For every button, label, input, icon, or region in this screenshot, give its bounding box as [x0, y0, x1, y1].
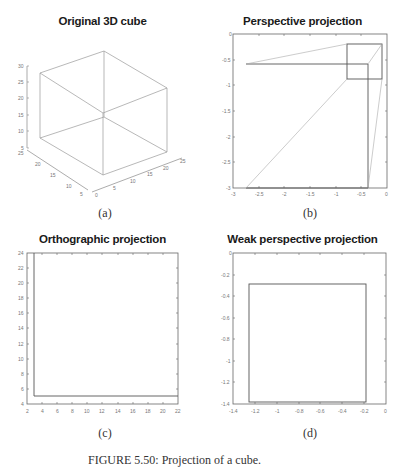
svg-text:0: 0: [229, 250, 232, 256]
svg-text:0: 0: [385, 191, 388, 197]
panel-b: Perspective projection 0-0.5-1 -1.5-2-2.…: [200, 0, 405, 220]
svg-text:20: 20: [18, 280, 24, 286]
svg-text:-1.5: -1.5: [306, 191, 315, 197]
svg-text:-3: -3: [226, 185, 231, 191]
panel-b-plot: 0-0.5-1 -1.5-2-2.5-3 -3-2.5-2-1.5 -1-0.5…: [200, 0, 405, 205]
svg-text:16: 16: [18, 310, 24, 316]
svg-text:-1.2: -1.2: [251, 408, 260, 414]
panel-d-plot: 0-0.2-0.4-0.6 -0.8-1-1.2-1.4 -1.4-1.2-1-…: [200, 220, 405, 420]
svg-text:25: 25: [18, 150, 24, 156]
svg-text:12: 12: [18, 341, 24, 347]
panel-a-plot: 302520 15105 252015 105 0510 152025: [0, 0, 200, 200]
svg-text:-2: -2: [282, 191, 287, 197]
svg-text:16: 16: [130, 408, 136, 414]
svg-text:0: 0: [384, 408, 387, 414]
svg-text:24: 24: [18, 250, 24, 256]
svg-text:22: 22: [18, 265, 24, 271]
svg-text:-0.8: -0.8: [295, 408, 304, 414]
svg-text:10: 10: [18, 356, 24, 362]
svg-text:-2: -2: [226, 134, 231, 140]
svg-text:5: 5: [113, 185, 116, 191]
panel-c-plot: 24222018 16141210 864 2468 10121416 1820…: [0, 220, 200, 420]
svg-text:22: 22: [175, 408, 181, 414]
svg-text:6: 6: [56, 408, 59, 414]
svg-text:20: 20: [35, 161, 41, 167]
svg-text:18: 18: [18, 295, 24, 301]
svg-text:-0.4: -0.4: [338, 408, 347, 414]
panel-d-label: (d): [295, 426, 325, 441]
svg-text:-1.5: -1.5: [222, 108, 231, 114]
svg-text:-0.2: -0.2: [221, 272, 230, 278]
svg-text:-1: -1: [334, 191, 339, 197]
svg-text:15: 15: [147, 171, 153, 177]
svg-text:25: 25: [18, 79, 24, 85]
svg-text:4: 4: [21, 401, 24, 407]
svg-text:20: 20: [18, 95, 24, 101]
svg-text:10: 10: [130, 178, 136, 184]
svg-text:-2.5: -2.5: [222, 159, 231, 165]
svg-text:15: 15: [50, 172, 56, 178]
svg-text:-1: -1: [226, 358, 231, 364]
svg-text:-1: -1: [275, 408, 280, 414]
figure-caption: FIGURE 5.50: Projection of a cube.: [88, 453, 261, 468]
svg-text:14: 14: [115, 408, 121, 414]
svg-text:-1.4: -1.4: [221, 401, 230, 407]
panel-c: Orthographic projection 24222018 1614121…: [0, 220, 200, 440]
svg-text:-1.4: -1.4: [229, 408, 238, 414]
svg-text:8: 8: [21, 371, 24, 377]
svg-text:4: 4: [41, 408, 44, 414]
svg-text:-0.5: -0.5: [222, 57, 231, 63]
svg-text:-1.2: -1.2: [221, 379, 230, 385]
svg-text:-2.5: -2.5: [255, 191, 264, 197]
svg-text:18: 18: [145, 408, 151, 414]
panel-d: Weak perspective projection 0-0.2-0.4-0.…: [200, 220, 405, 440]
svg-text:14: 14: [18, 325, 24, 331]
svg-text:6: 6: [21, 386, 24, 392]
svg-text:2: 2: [26, 408, 29, 414]
svg-text:-0.6: -0.6: [221, 315, 230, 321]
svg-text:-0.5: -0.5: [357, 191, 366, 197]
svg-text:15: 15: [18, 112, 24, 118]
svg-text:-3: -3: [231, 191, 236, 197]
panel-b-label: (b): [295, 206, 325, 221]
svg-text:10: 10: [66, 183, 72, 189]
svg-text:0: 0: [95, 192, 98, 198]
svg-text:8: 8: [71, 408, 74, 414]
svg-text:30: 30: [18, 63, 24, 69]
panel-a: Original 3D cube 302520 15105 252015 105…: [0, 0, 200, 220]
panel-a-label: (a): [90, 206, 120, 221]
svg-text:25: 25: [180, 158, 186, 164]
svg-text:12: 12: [99, 408, 105, 414]
panel-c-label: (c): [90, 426, 120, 441]
svg-text:-1: -1: [226, 82, 231, 88]
svg-text:10: 10: [84, 408, 90, 414]
svg-text:-0.8: -0.8: [221, 336, 230, 342]
svg-text:-0.4: -0.4: [221, 293, 230, 299]
svg-text:-0.2: -0.2: [360, 408, 369, 414]
svg-text:-0.6: -0.6: [316, 408, 325, 414]
svg-text:0: 0: [229, 31, 232, 37]
svg-text:10: 10: [18, 128, 24, 134]
svg-text:5: 5: [80, 191, 83, 197]
svg-text:20: 20: [163, 165, 169, 171]
svg-text:20: 20: [160, 408, 166, 414]
